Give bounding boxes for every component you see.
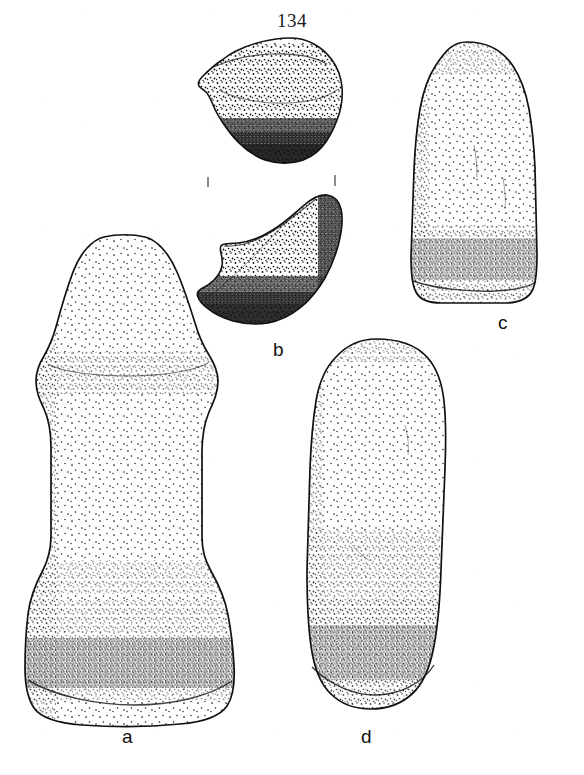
- figure-b-lower-fragment: [190, 185, 352, 334]
- figure-label-d: d: [361, 727, 372, 746]
- artifact-illustration-group: [0, 0, 584, 775]
- figure-label-a: a: [122, 727, 133, 746]
- figure-b-stone-fragments: [190, 30, 352, 334]
- figure-label-c: c: [498, 313, 508, 332]
- break-tick-marks: [208, 175, 335, 187]
- figure-b-upper-fragment: [190, 30, 350, 176]
- figure-d-stone-mano: [300, 332, 450, 720]
- figure-c-stone-celt: [405, 35, 545, 311]
- plate-page: 134: [0, 0, 584, 775]
- figure-label-b: b: [273, 340, 284, 359]
